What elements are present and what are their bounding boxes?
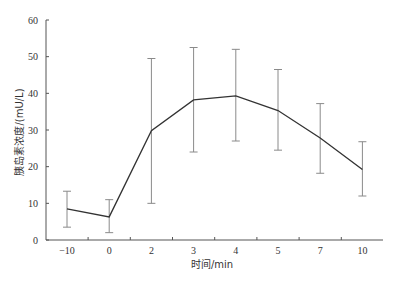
x-tick-label: 10 (357, 245, 367, 256)
axes (46, 20, 383, 240)
error-bars (63, 48, 366, 233)
x-axis-title: 时间/min (191, 258, 233, 270)
y-tick-label: 0 (33, 235, 38, 246)
line-chart: 0102030405060−1002345710 时间/min 胰岛素浓度/(m… (0, 0, 398, 288)
y-tick-label: 40 (28, 88, 38, 99)
y-tick-label: 20 (28, 161, 38, 172)
y-tick-label: 10 (28, 198, 38, 209)
y-axis-title: 胰岛素浓度/(mU/L) (13, 88, 25, 175)
series-line (67, 96, 362, 217)
x-tick-label: 4 (233, 245, 238, 256)
y-tick-label: 30 (28, 125, 38, 136)
x-tick-label: 3 (191, 245, 196, 256)
x-tick-label: 5 (276, 245, 281, 256)
data-series (67, 96, 362, 217)
x-tick-label: −10 (59, 245, 75, 256)
y-tick-label: 50 (28, 51, 38, 62)
x-tick-label: 2 (149, 245, 154, 256)
y-tick-label: 60 (28, 15, 38, 26)
x-tick-label: 0 (107, 245, 112, 256)
x-tick-label: 7 (318, 245, 323, 256)
